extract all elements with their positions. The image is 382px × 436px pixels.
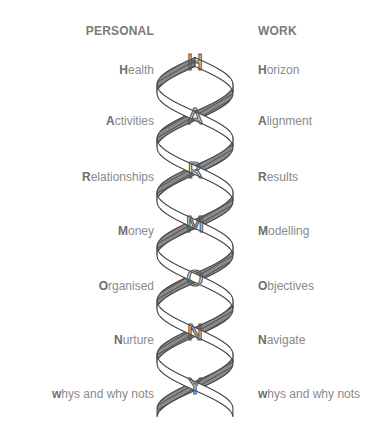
helix-letter-o: O bbox=[186, 266, 203, 291]
work-item-alignment: Alignment bbox=[258, 114, 312, 128]
work-heading: WORK bbox=[258, 24, 297, 38]
helix-letters: HARMONY bbox=[186, 50, 205, 399]
helix-letter-r: R bbox=[187, 158, 202, 183]
personal-heading: PERSONAL bbox=[86, 24, 154, 38]
helix-letter-n: N bbox=[187, 320, 203, 345]
helix-letter-m: M bbox=[186, 212, 205, 237]
helix-letter-h: H bbox=[187, 50, 204, 75]
helix-letter-y: Y bbox=[187, 374, 202, 399]
harmony-helix: HARMONY bbox=[140, 50, 250, 435]
work-item-modelling: Modelling bbox=[258, 224, 309, 238]
work-item-results: Results bbox=[258, 170, 298, 184]
work-item-navigate: Navigate bbox=[258, 333, 305, 347]
personal-item-whys: whys and why nots bbox=[52, 387, 154, 401]
helix-letter-a: A bbox=[187, 104, 202, 129]
work-item-objectives: Objectives bbox=[258, 279, 314, 293]
work-item-horizon: Horizon bbox=[258, 63, 299, 77]
work-item-whys: whys and why nots bbox=[258, 387, 360, 401]
